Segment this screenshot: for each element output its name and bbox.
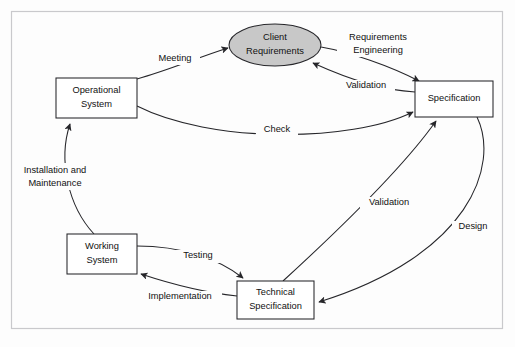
node-specification[interactable]: Specification xyxy=(415,81,493,117)
node-label-client-requirements-line2: Requirements xyxy=(246,46,304,56)
node-label-operational-system-line2: System xyxy=(81,99,112,109)
diagram-canvas: Meeting Requirements Engineering Validat… xyxy=(0,0,515,347)
edge-label-requirements-engineering-line2: Engineering xyxy=(353,45,403,55)
edge-testing: Testing xyxy=(137,246,243,278)
node-label-working-system-line2: System xyxy=(87,255,118,265)
node-operational-system[interactable]: Operational System xyxy=(56,78,137,118)
node-working-system[interactable]: Working System xyxy=(67,234,137,274)
edge-label-implementation: Implementation xyxy=(148,291,212,301)
edge-requirements-engineering: Requirements Engineering xyxy=(321,31,419,81)
edge-label-check: Check xyxy=(264,124,291,134)
node-label-operational-system-line1: Operational xyxy=(72,85,120,95)
lifecycle-diagram: Meeting Requirements Engineering Validat… xyxy=(0,0,515,347)
node-label-specification: Specification xyxy=(428,93,481,103)
edge-validation-spec-to-client: Validation xyxy=(313,63,415,93)
edge-label-validation-tech-to-spec: Validation xyxy=(369,197,409,207)
node-technical-specification[interactable]: Technical Specification xyxy=(237,281,314,319)
edge-label-meeting: Meeting xyxy=(158,53,191,63)
edge-implementation: Implementation xyxy=(138,274,237,304)
edge-label-installation-line2: Maintenance xyxy=(28,178,81,188)
edge-meeting: Meeting xyxy=(137,48,228,79)
node-label-technical-specification-line1: Technical xyxy=(256,287,295,297)
edge-label-design: Design xyxy=(459,221,488,231)
edge-label-testing: Testing xyxy=(183,250,212,260)
node-label-working-system-line1: Working xyxy=(85,241,119,251)
edge-validation-tech-to-spec: Validation xyxy=(283,121,436,281)
node-client-requirements[interactable]: Client Requirements xyxy=(229,24,321,66)
edge-label-requirements-engineering-line1: Requirements xyxy=(349,32,407,42)
edge-check: Check xyxy=(137,106,413,137)
node-label-client-requirements-line1: Client xyxy=(263,32,287,42)
node-label-technical-specification-line2: Specification xyxy=(249,301,302,311)
edge-label-validation-spec-to-client: Validation xyxy=(346,80,386,90)
edge-installation-and-maintenance: Installation and Maintenance xyxy=(14,124,98,234)
edge-label-installation-line1: Installation and xyxy=(24,165,87,175)
